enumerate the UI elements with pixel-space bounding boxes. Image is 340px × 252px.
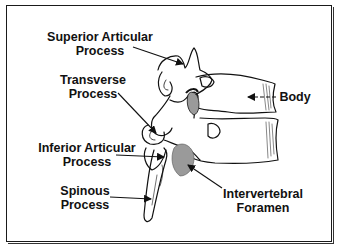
label-line: Body: [275, 90, 315, 104]
label-line: Superior Articular: [40, 30, 160, 44]
leader-spinous: [110, 197, 151, 199]
label-line: Spinous: [55, 184, 115, 198]
label-line: Foramen: [215, 201, 311, 215]
intervertebral-foramen-shading: [172, 144, 194, 176]
label-line: Process: [40, 44, 160, 58]
upper-lamina: [158, 48, 212, 95]
upper-foramen-shading: [187, 92, 199, 115]
label-transverse-process: Transverse Process: [53, 73, 133, 101]
inferior-articular-outline: [144, 148, 166, 170]
label-line: Process: [53, 87, 133, 101]
label-line: Transverse: [53, 73, 133, 87]
label-line: Intervertebral: [215, 187, 311, 201]
label-line: Inferior Articular: [34, 141, 140, 155]
label-inferior-articular-process: Inferior Articular Process: [34, 141, 140, 169]
label-body: Body: [275, 90, 315, 104]
label-line: Process: [34, 155, 140, 169]
label-line: Process: [55, 198, 115, 212]
lower-vertebral-body: [192, 118, 278, 163]
label-intervertebral-foramen: Intervertebral Foramen: [215, 187, 311, 215]
label-superior-articular-process: Superior Articular Process: [40, 30, 160, 58]
label-spinous-process: Spinous Process: [55, 184, 115, 212]
leader-foramen: [188, 165, 222, 188]
